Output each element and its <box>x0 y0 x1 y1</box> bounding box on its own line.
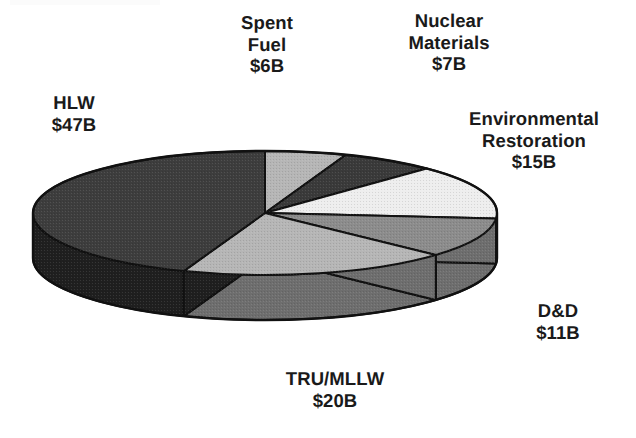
slice-label-tru-mllw-value: $20B <box>240 390 430 412</box>
slice-label-hlw: HLW $47B <box>6 92 142 135</box>
pie-chart-figure: HLW $47B Spent Fuel $6B Nuclear Material… <box>0 0 636 438</box>
slice-label-dd-name: D&D <box>502 300 614 322</box>
slice-label-nuclear-materials: Nuclear Materials $7B <box>374 10 524 75</box>
slice-label-dd-value: $11B <box>502 322 614 344</box>
slice-label-environmental-restoration-value: $15B <box>432 151 636 173</box>
slice-label-nuclear-materials-value: $7B <box>374 53 524 75</box>
pie-texture-overlay <box>33 151 497 320</box>
slice-label-spent-fuel: Spent Fuel $6B <box>196 12 338 77</box>
slice-label-environmental-restoration: Environmental Restoration $15B <box>432 108 636 173</box>
slice-label-spent-fuel-name1: Spent <box>196 12 338 34</box>
slice-label-dd: D&D $11B <box>502 300 614 343</box>
slice-label-hlw-value: $47B <box>6 114 142 136</box>
slice-label-spent-fuel-name2: Fuel <box>196 34 338 56</box>
slice-label-environmental-restoration-name2: Restoration <box>432 130 636 152</box>
slice-label-environmental-restoration-name1: Environmental <box>432 108 636 130</box>
slice-label-hlw-name: HLW <box>6 92 142 114</box>
slice-label-tru-mllw-name: TRU/MLLW <box>240 368 430 390</box>
slice-label-spent-fuel-value: $6B <box>196 55 338 77</box>
slice-label-nuclear-materials-name1: Nuclear <box>374 10 524 32</box>
slice-label-nuclear-materials-name2: Materials <box>374 32 524 54</box>
slice-label-tru-mllw: TRU/MLLW $20B <box>240 368 430 411</box>
